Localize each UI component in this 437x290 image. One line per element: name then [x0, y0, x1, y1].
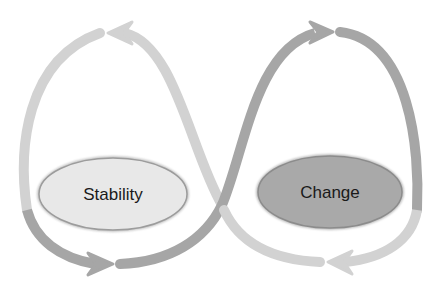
stability-label: Stability — [83, 185, 143, 204]
stability-node: Stability — [37, 156, 189, 232]
cycle-diagram: Stability Change — [0, 0, 437, 290]
change-node: Change — [256, 154, 404, 230]
change-label: Change — [300, 183, 360, 202]
